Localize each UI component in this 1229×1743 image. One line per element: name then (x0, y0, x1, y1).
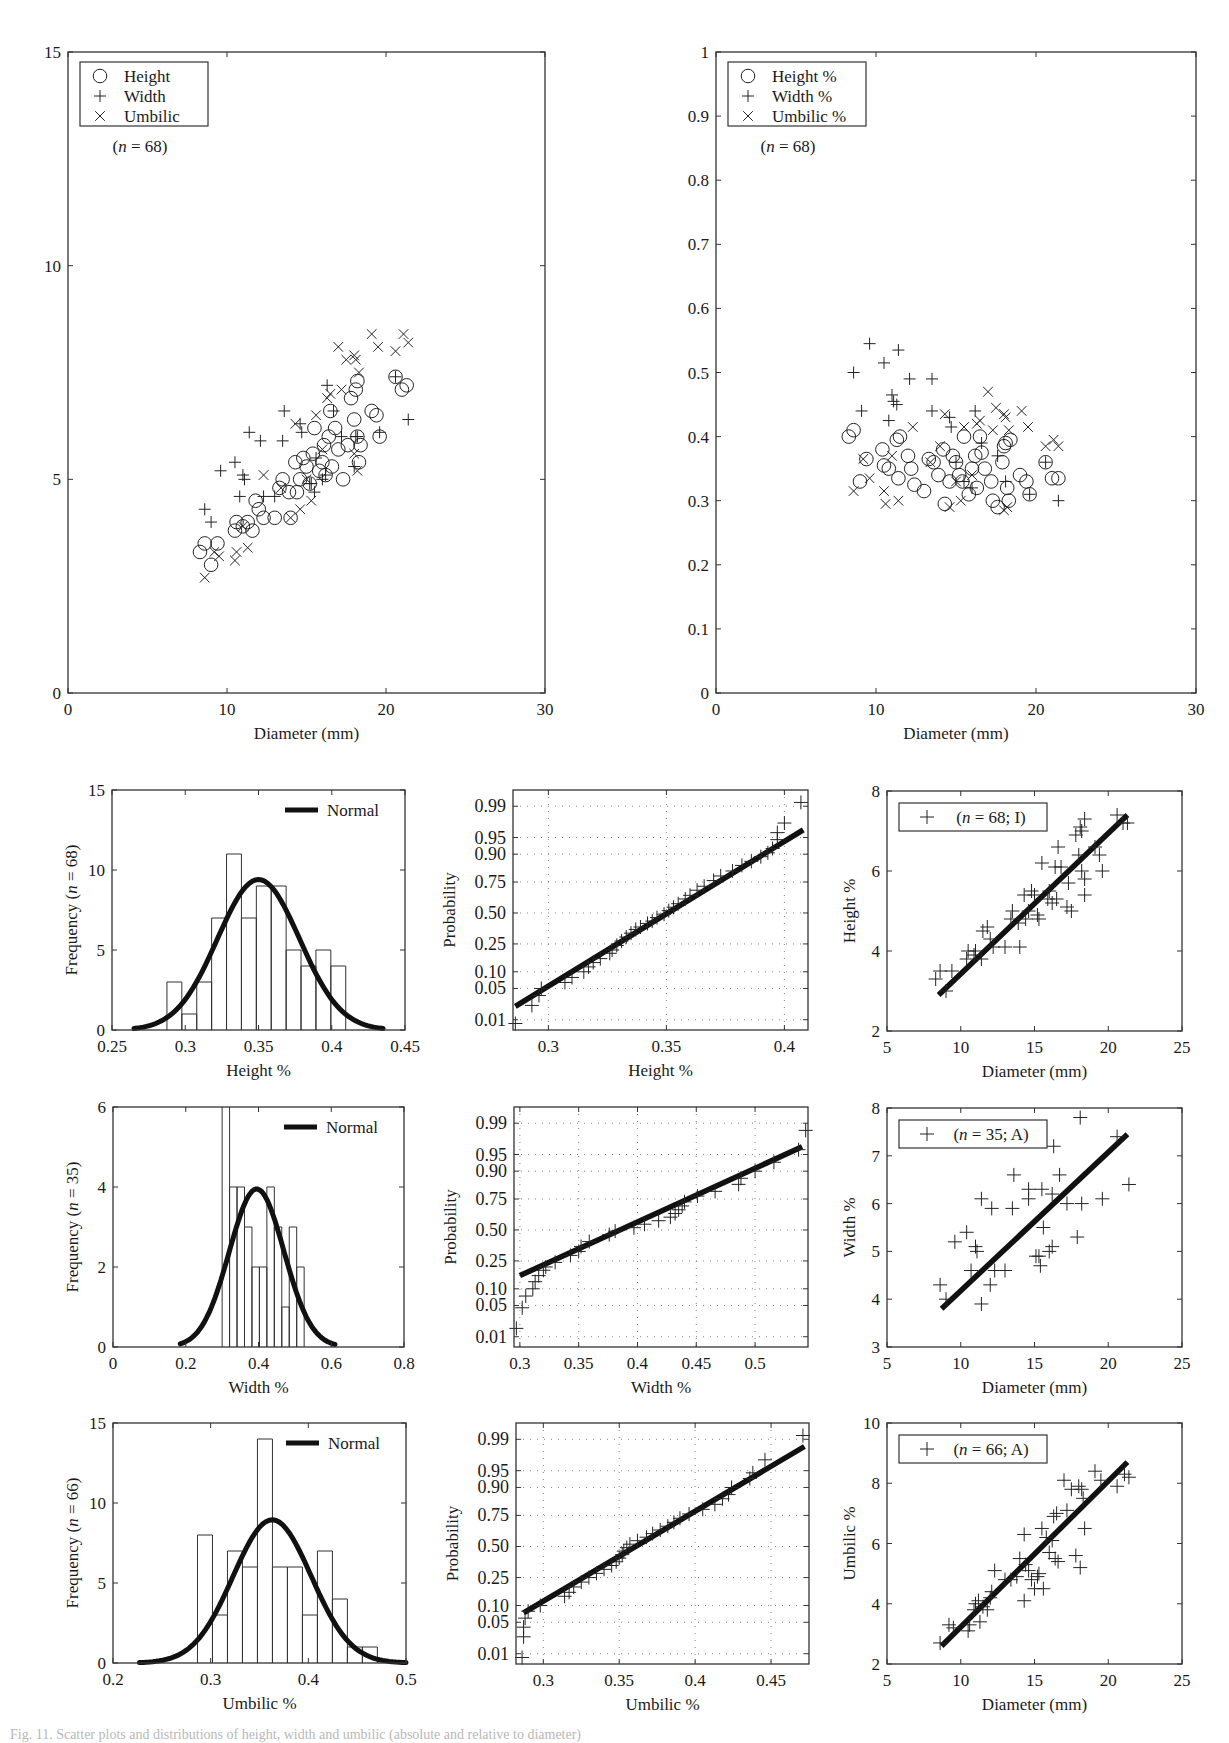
y-tick-label: 0.95 (476, 1145, 508, 1165)
x-tick-label: 0.4 (627, 1354, 649, 1373)
y-tick-label: 0.6 (688, 299, 709, 318)
legend-label: Height (124, 67, 171, 86)
x-axis-label: Diameter (mm) (982, 1695, 1087, 1714)
legend: (n = 66; A) (899, 1435, 1047, 1463)
histogram-bar (256, 886, 271, 1030)
y-tick-label: 4 (872, 1595, 881, 1614)
axes-frame (113, 1423, 406, 1663)
y-tick-label: 0.50 (475, 903, 507, 923)
x-axis-label: Umbilic % (625, 1695, 699, 1714)
fit-line (939, 815, 1128, 995)
y-tick-label: 6 (872, 1535, 881, 1554)
fit-line (520, 1147, 802, 1276)
x-tick-label: 0.3 (175, 1037, 196, 1056)
y-tick-label: 5 (97, 941, 106, 960)
x-tick-label: 25 (1174, 1671, 1191, 1690)
y-axis-label: Probability (443, 1505, 462, 1581)
y-tick-label: 4 (872, 942, 881, 961)
x-tick-label: 0.3 (533, 1671, 554, 1690)
x-axis-label: Diameter (mm) (982, 1378, 1087, 1397)
y-tick-label: 8 (872, 782, 881, 801)
y-tick-label: 0 (701, 684, 710, 703)
y-tick-label: 6 (872, 1195, 881, 1214)
chart-prob-umbilic: 0.30.350.40.450.010.050.100.250.500.750.… (443, 1423, 810, 1714)
y-tick-label: 15 (89, 1414, 106, 1433)
x-tick-label: 10 (868, 700, 885, 719)
y-tick-label: 4 (98, 1178, 107, 1197)
histogram-bar (302, 1615, 317, 1663)
legend: HeightWidthUmbilic(n = 68) (80, 62, 208, 156)
y-tick-label: 5 (872, 1242, 881, 1261)
y-tick-label: 0.95 (478, 1461, 510, 1481)
y-tick-label: 8 (872, 1099, 881, 1118)
x-tick-label: 30 (1188, 700, 1205, 719)
y-tick-label: 0.75 (475, 872, 507, 892)
y-tick-label: 0.4 (688, 428, 710, 447)
y-tick-label: 0 (98, 1338, 107, 1357)
y-tick-label: 0.5 (688, 364, 709, 383)
legend: (n = 35; A) (899, 1120, 1047, 1148)
sample-size-note: (n = 68) (113, 137, 168, 156)
y-tick-label: 0.99 (478, 1429, 510, 1449)
histogram-bar (282, 1307, 289, 1347)
y-tick-label: 5 (98, 1574, 107, 1593)
chart-scatter-umbilic: 510152025246810Diameter (mm)Umbilic %(n … (840, 1414, 1191, 1714)
x-tick-label: 0.45 (390, 1037, 420, 1056)
y-tick-label: 2 (872, 1655, 881, 1674)
y-tick-label: 7 (872, 1147, 881, 1166)
x-axis-label: Width % (228, 1378, 288, 1397)
y-tick-label: 0.01 (476, 1327, 508, 1347)
chart-top-right: 010203000.10.20.30.40.50.60.70.80.91Diam… (688, 43, 1205, 743)
x-tick-label: 30 (537, 700, 554, 719)
legend-label: Width (124, 87, 166, 106)
x-tick-label: 0 (64, 700, 73, 719)
y-axis-label: Height % (840, 879, 859, 944)
y-axis-label: Frequency (n = 35) (63, 1162, 82, 1293)
axes-frame (513, 790, 808, 1030)
y-tick-label: 0 (53, 684, 62, 703)
y-tick-label: 0.25 (478, 1568, 510, 1588)
histogram-bar (230, 1187, 237, 1347)
series-width (199, 371, 415, 528)
y-tick-label: 15 (88, 781, 105, 800)
legend: Normal (286, 1434, 380, 1453)
y-tick-label: 0.10 (478, 1596, 510, 1616)
histogram-bar (286, 950, 301, 1030)
y-tick-label: 0.9 (688, 107, 709, 126)
legend-label: (n = 66; A) (953, 1440, 1028, 1459)
x-tick-label: 0.4 (321, 1037, 343, 1056)
x-tick-label: 0.35 (652, 1037, 682, 1056)
y-tick-label: 0.01 (475, 1010, 507, 1030)
series-umbilic (849, 387, 1063, 515)
y-tick-label: 8 (872, 1474, 881, 1493)
histogram-bar (259, 1267, 266, 1347)
x-tick-label: 25 (1174, 1354, 1191, 1373)
histogram-bar (212, 1615, 227, 1663)
x-tick-label: 0.4 (298, 1670, 320, 1689)
y-tick-label: 6 (98, 1098, 107, 1117)
x-tick-label: 20 (1100, 1354, 1117, 1373)
y-tick-label: 0.3 (688, 492, 709, 511)
x-tick-label: 0.35 (564, 1354, 594, 1373)
y-tick-label: 3 (872, 1338, 881, 1357)
fit-line (942, 1134, 1128, 1308)
x-tick-label: 10 (952, 1671, 969, 1690)
x-tick-label: 0.4 (248, 1354, 270, 1373)
x-tick-label: 5 (883, 1038, 892, 1057)
y-tick-label: 0.99 (475, 796, 507, 816)
x-axis-label: Height % (628, 1061, 693, 1080)
legend-label: Umbilic % (772, 107, 846, 126)
x-tick-label: 0.3 (509, 1354, 530, 1373)
x-tick-label: 0.4 (685, 1671, 707, 1690)
data-points (508, 795, 808, 1030)
y-tick-label: 0.75 (476, 1189, 508, 1209)
x-tick-label: 25 (1174, 1038, 1191, 1057)
y-tick-label: 2 (98, 1258, 107, 1277)
x-axis-label: Height % (226, 1061, 291, 1080)
y-tick-label: 5 (53, 470, 62, 489)
y-tick-label: 10 (44, 257, 61, 276)
x-tick-label: 0.45 (756, 1671, 786, 1690)
x-tick-label: 0.3 (200, 1670, 221, 1689)
y-tick-label: 0.75 (478, 1505, 510, 1525)
x-axis-label: Diameter (mm) (254, 724, 359, 743)
